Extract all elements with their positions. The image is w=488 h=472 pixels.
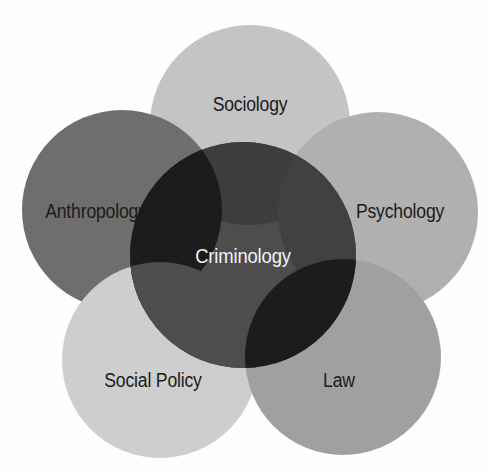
venn-diagram-canvas	[0, 0, 488, 472]
venn-diagram: Sociology Anthropology Psychology Social…	[0, 0, 488, 472]
